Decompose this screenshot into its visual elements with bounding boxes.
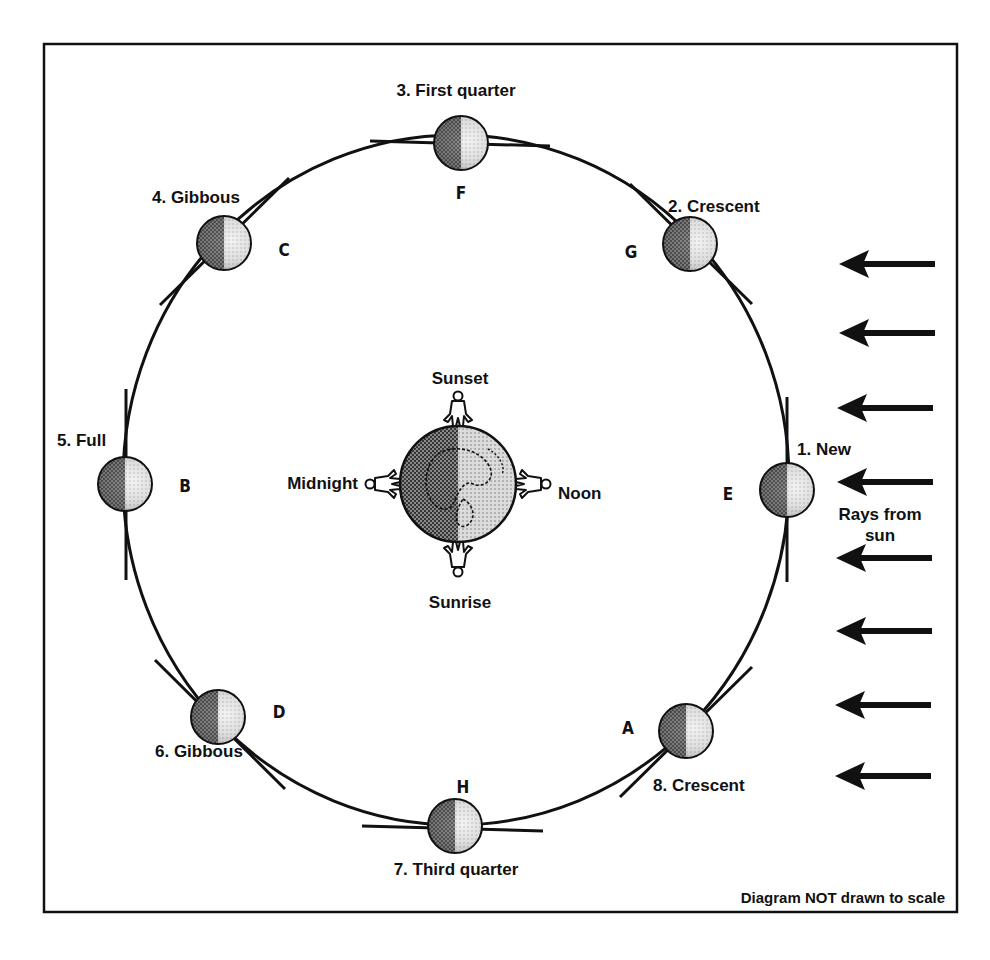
svg-text:4. Gibbous: 4. Gibbous [152,188,240,207]
moon-1-new: 1. New E [723,397,852,582]
svg-text:3. First quarter: 3. First quarter [396,81,515,100]
person-sunrise-icon [444,542,472,577]
svg-text:G: G [625,242,638,262]
earth-label-midnight: Midnight [287,474,358,493]
earth [366,392,551,577]
moon-icon [197,216,251,270]
person-noon-icon [516,470,551,498]
moon-5-full: 5. Full B [57,389,191,580]
sun-ray-arrow-icon [839,250,935,278]
moon-7-third-quarter: 7. Third quarter H [362,777,543,879]
moon-phases-diagram: Rays from sun Sunset Sunrise Midnight No… [0,0,990,960]
moon-icon [434,116,488,170]
moon-icon [98,457,152,511]
svg-text:7. Third quarter: 7. Third quarter [394,860,519,879]
person-midnight-icon [366,470,401,498]
svg-text:5. Full: 5. Full [57,431,106,450]
svg-text:8. Crescent: 8. Crescent [653,776,745,795]
svg-text:A: A [622,718,634,738]
earth-label-sunset: Sunset [432,369,489,388]
moon-2-crescent: 2. Crescent G [625,184,760,304]
svg-text:D: D [273,702,286,722]
moon-8-crescent: 8. Crescent A [620,667,752,797]
svg-text:6. Gibbous: 6. Gibbous [155,742,243,761]
sun-ray-arrow-icon [835,691,931,719]
earth-label-noon: Noon [558,484,601,503]
svg-text:1. New: 1. New [797,440,852,459]
sun-rays-label: Rays from [838,505,921,524]
moon-icon [663,217,717,271]
moon-icon [659,704,713,758]
svg-text:2. Crescent: 2. Crescent [668,197,760,216]
moon-icon [428,799,482,853]
earth-label-sunrise: Sunrise [429,593,491,612]
moon-4-gibbous: 4. Gibbous C [152,178,290,305]
person-sunset-icon [444,392,472,427]
sun-rays-label-line2: sun [865,526,895,545]
svg-text:E: E [723,484,733,504]
svg-text:B: B [179,476,191,496]
sun-ray-arrow-icon [836,544,932,572]
svg-text:H: H [457,777,470,797]
svg-text:F: F [456,183,466,203]
sun-ray-arrow-icon [837,394,933,422]
moon-icon [191,690,245,744]
sun-ray-arrow-icon [837,468,933,496]
scale-note: Diagram NOT drawn to scale [741,889,945,906]
sun-ray-arrow-icon [836,617,932,645]
sun-ray-arrow-icon [835,762,931,790]
sun-ray-arrow-icon [839,319,935,347]
svg-text:C: C [278,240,289,260]
moon-6-gibbous: 6. Gibbous D [155,660,285,789]
moon-icon [760,463,814,517]
